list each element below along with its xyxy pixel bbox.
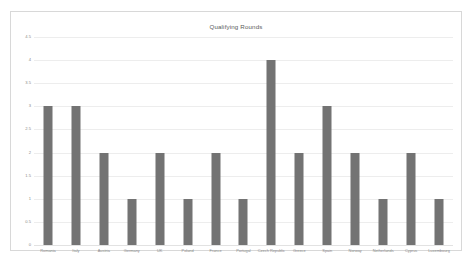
bar: [379, 199, 388, 245]
x-axis-tick-label: Poland: [182, 249, 194, 253]
y-axis-tick-label: 2.5: [25, 127, 31, 131]
x-axis-tick-label: Czech Republic: [258, 249, 285, 253]
chart-frame: Qualifying Rounds 00.511.522.533.544.5 R…: [10, 11, 462, 251]
plot-area: 00.511.522.533.544.5 RomaniaItalyAustria…: [34, 37, 453, 245]
x-axis-tick-label: UK: [157, 249, 162, 253]
y-axis-tick-label: 3: [29, 104, 31, 108]
y-axis-tick-label: 4.5: [25, 35, 31, 39]
x-axis-tick-label: Greece: [293, 249, 306, 253]
bar-group: Luxembourg: [425, 37, 453, 245]
bar: [43, 106, 52, 245]
bar-group: Italy: [62, 37, 90, 245]
x-axis-tick-label: Netherlands: [373, 249, 394, 253]
x-axis-tick-label: Italy: [72, 249, 79, 253]
y-axis-tick-label: 1: [29, 197, 31, 201]
bar-group: Czech Republic: [257, 37, 285, 245]
bar: [435, 199, 444, 245]
bar-group: Portugal: [230, 37, 258, 245]
y-axis-tick-label: 4: [29, 58, 31, 62]
bar: [99, 153, 108, 245]
x-axis-tick-label: Germany: [124, 249, 140, 253]
chart-title: Qualifying Rounds: [11, 23, 461, 30]
y-axis-tick-label: 0.5: [25, 220, 31, 224]
x-axis-tick-label: Austria: [98, 249, 110, 253]
bar: [239, 199, 248, 245]
bar: [155, 153, 164, 245]
bar: [183, 199, 192, 245]
x-axis-tick-label: France: [209, 249, 221, 253]
x-axis-tick-label: Cyprus: [405, 249, 417, 253]
bar-group: Netherlands: [369, 37, 397, 245]
bar-group: Greece: [285, 37, 313, 245]
bar-group: Germany: [118, 37, 146, 245]
y-axis-tick-label: 1.5: [25, 174, 31, 178]
bar: [351, 153, 360, 245]
x-axis-tick-label: Romania: [40, 249, 56, 253]
bar-group: Norway: [341, 37, 369, 245]
bar-group: Austria: [90, 37, 118, 245]
y-axis-tick-label: 2: [29, 151, 31, 155]
x-axis-tick-label: Norway: [349, 249, 362, 253]
bar-group: UK: [146, 37, 174, 245]
y-axis-tick-label: 0: [29, 243, 31, 247]
bar: [295, 153, 304, 245]
x-axis-tick-label: Luxembourg: [428, 249, 450, 253]
bar: [127, 199, 136, 245]
bar-group: Spain: [313, 37, 341, 245]
bar-group: Cyprus: [397, 37, 425, 245]
gridline: [34, 245, 453, 246]
bar: [407, 153, 416, 245]
bar-group: Romania: [34, 37, 62, 245]
bar: [323, 106, 332, 245]
x-axis-tick-label: Portugal: [236, 249, 251, 253]
x-axis-tick-label: Spain: [322, 249, 332, 253]
y-axis-tick-label: 3.5: [25, 81, 31, 85]
bar: [211, 153, 220, 245]
bar-group: France: [202, 37, 230, 245]
bar-group: Poland: [174, 37, 202, 245]
bar: [71, 106, 80, 245]
bar: [267, 60, 276, 245]
bar-series: RomaniaItalyAustriaGermanyUKPolandFrance…: [34, 37, 453, 245]
